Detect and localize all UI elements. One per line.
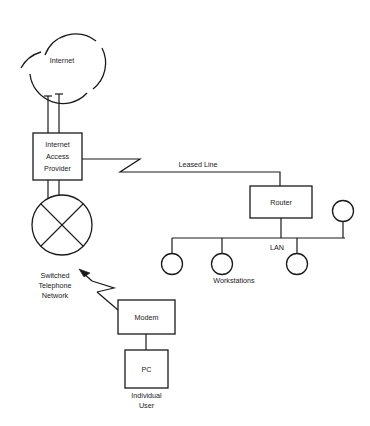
workstation-node-2[interactable] — [212, 238, 233, 275]
modem-stn-arrowhead — [79, 269, 90, 277]
workstation-2-circle — [212, 254, 233, 275]
network-diagram-canvas: Internet Internet Access Provider — [0, 0, 370, 426]
stn-label-line-1: Switched — [40, 271, 69, 280]
internet-cloud-arc-4 — [21, 52, 41, 68]
workstation-3-circle — [287, 254, 308, 275]
pc-node[interactable]: PC — [125, 350, 168, 388]
modem-stn-segment-lower — [97, 292, 118, 310]
workstation-node-3[interactable] — [287, 238, 308, 275]
workstation-1-circle — [162, 254, 183, 275]
individual-user-caption-group: Individual User — [131, 391, 162, 410]
individual-user-caption-line-1: Individual — [131, 391, 162, 400]
leased-line-link[interactable]: Leased Line — [82, 159, 280, 186]
workstation-4-circle — [333, 201, 354, 222]
router-label: Router — [270, 198, 292, 207]
stn-label-line-2: Telephone — [38, 281, 71, 290]
workstation-group-below — [162, 238, 308, 275]
iap-label-line-1: Internet — [45, 140, 69, 149]
lan-bus-link[interactable]: LAN — [172, 238, 345, 252]
network-diagram-svg: Internet Internet Access Provider — [0, 0, 370, 426]
stn-label-group: Switched Telephone Network — [38, 271, 71, 300]
workstations-caption: Workstations — [213, 276, 255, 285]
iap-label-line-3: Provider — [44, 164, 71, 173]
switched-telephone-network-node[interactable] — [32, 195, 92, 255]
modem-label: Modem — [135, 313, 159, 322]
internet-cloud-label: Internet — [50, 56, 74, 65]
leased-line-segment-right — [142, 172, 280, 186]
lan-bus-label: LAN — [270, 243, 284, 252]
internet-access-provider-node[interactable]: Internet Access Provider — [33, 133, 82, 180]
modem-stn-break-zigzag — [92, 281, 114, 292]
internet-cloud-arc-1 — [45, 34, 96, 55]
workstation-node-4[interactable] — [333, 201, 354, 239]
pc-label: PC — [142, 365, 152, 374]
stn-label-line-3: Network — [42, 291, 69, 300]
modem-to-stn-link[interactable] — [79, 269, 118, 310]
internet-cloud-arc-2 — [93, 48, 106, 89]
router-node[interactable]: Router — [250, 186, 312, 218]
internet-cloud-node[interactable]: Internet — [21, 34, 106, 104]
leased-line-label: Leased Line — [178, 160, 217, 169]
individual-user-caption-line-2: User — [139, 401, 155, 410]
leased-line-break-zigzag — [118, 159, 142, 172]
iap-label-line-2: Access — [46, 152, 70, 161]
workstation-node-1[interactable] — [162, 238, 183, 275]
modem-node[interactable]: Modem — [118, 300, 175, 334]
